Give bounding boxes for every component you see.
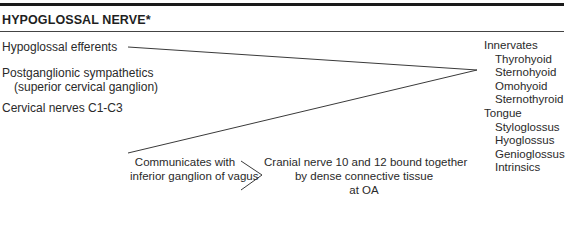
communicates-note: Communicates with inferior ganglion of v… — [130, 155, 240, 183]
source-sympathetics-ganglion: (superior cervical ganglion) — [14, 80, 158, 94]
source-cervical-nerves: Cervical nerves C1-C3 — [2, 101, 123, 115]
source-hypoglossal-efferents: Hypoglossal efferents — [2, 40, 117, 54]
innervates-header: Innervates — [484, 39, 565, 53]
innervation-list: Innervates Thyrohyoid Sternohyoid Omohyo… — [484, 39, 565, 175]
bound-line: Cranial nerve 10 and 12 bound together — [264, 155, 464, 169]
muscle-item: Thyrohyoid — [484, 53, 565, 67]
bound-line: at OA — [264, 183, 464, 197]
muscle-item: Omohyoid — [484, 80, 565, 94]
bound-line: by dense connective tissue — [264, 169, 464, 183]
convergence-connector — [128, 70, 477, 153]
tongue-muscle-item: Intrinsics — [484, 161, 565, 175]
communicates-line: inferior ganglion of vagus — [130, 169, 240, 183]
tongue-muscle-item: Styloglossus — [484, 121, 565, 135]
efferents-connector — [128, 47, 477, 70]
tongue-muscle-item: Hyoglossus — [484, 134, 565, 148]
tongue-header: Tongue — [484, 107, 565, 121]
muscle-item: Sternothyroid — [484, 93, 565, 107]
tongue-muscle-item: Genioglossus — [484, 148, 565, 162]
muscle-item: Sternohyoid — [484, 66, 565, 80]
bound-together-note: Cranial nerve 10 and 12 bound together b… — [264, 155, 464, 197]
communicates-line: Communicates with — [130, 155, 240, 169]
source-sympathetics: Postganglionic sympathetics — [2, 66, 153, 80]
